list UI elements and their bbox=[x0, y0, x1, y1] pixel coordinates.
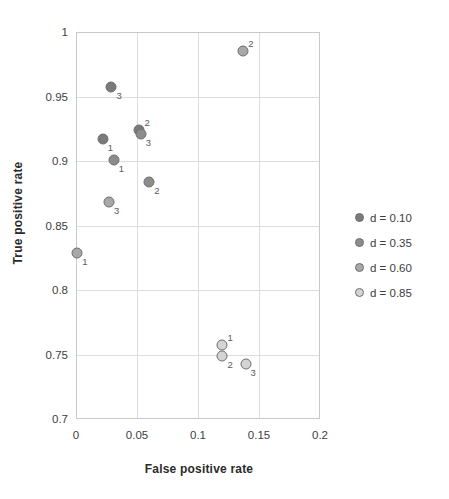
legend-item-label: d = 0.85 bbox=[370, 287, 412, 299]
gridline-horizontal bbox=[77, 97, 319, 98]
legend-marker-icon bbox=[355, 213, 364, 222]
data-point-label: 2 bbox=[248, 38, 253, 49]
data-point bbox=[106, 82, 117, 93]
y-axis-tick-label: 0.7 bbox=[24, 413, 68, 425]
legend-item-label: d = 0.60 bbox=[370, 262, 412, 274]
data-point bbox=[72, 247, 83, 258]
legend-marker-icon bbox=[355, 263, 364, 272]
legend-marker-icon bbox=[355, 288, 364, 297]
data-point bbox=[108, 154, 119, 165]
data-point bbox=[217, 350, 228, 361]
data-point-label: 3 bbox=[251, 367, 256, 378]
data-point bbox=[238, 46, 249, 57]
y-axis-tick-label: 0.75 bbox=[24, 349, 68, 361]
data-point-label: 3 bbox=[114, 205, 119, 216]
data-point-label: 1 bbox=[227, 332, 232, 343]
data-point bbox=[103, 197, 114, 208]
legend-marker-icon bbox=[355, 238, 364, 247]
legend-item-label: d = 0.35 bbox=[370, 237, 412, 249]
chart-figure: 00.050.10.150.20.70.750.80.850.90.951 12… bbox=[0, 0, 449, 499]
y-axis-title: True positive rate bbox=[11, 133, 25, 293]
legend-item: d = 0.10 bbox=[355, 205, 447, 230]
x-axis-tick-label: 0.05 bbox=[126, 429, 148, 441]
data-point bbox=[144, 176, 155, 187]
legend-item: d = 0.35 bbox=[355, 230, 447, 255]
data-point bbox=[240, 358, 251, 369]
x-axis-title: False positive rate bbox=[0, 462, 398, 476]
x-axis-tick-label: 0.1 bbox=[190, 429, 206, 441]
gridline-horizontal bbox=[77, 290, 319, 291]
legend-item-label: d = 0.10 bbox=[370, 212, 412, 224]
chart-legend: d = 0.10d = 0.35d = 0.60d = 0.85 bbox=[355, 205, 447, 305]
legend-item: d = 0.60 bbox=[355, 255, 447, 280]
x-axis-tick-label: 0.15 bbox=[248, 429, 270, 441]
data-point-label: 1 bbox=[82, 256, 87, 267]
x-axis-tick-label: 0.2 bbox=[312, 429, 328, 441]
data-point-label: 3 bbox=[116, 90, 121, 101]
data-point-label: 3 bbox=[146, 137, 151, 148]
y-axis-tick-label: 0.95 bbox=[24, 91, 68, 103]
data-point-label: 2 bbox=[144, 117, 149, 128]
y-axis-tick-label: 0.85 bbox=[24, 220, 68, 232]
gridline-horizontal bbox=[77, 226, 319, 227]
y-axis-tick-label: 0.9 bbox=[24, 155, 68, 167]
y-axis-tick-label: 1 bbox=[24, 26, 68, 38]
legend-item: d = 0.85 bbox=[355, 280, 447, 305]
gridline-horizontal bbox=[77, 355, 319, 356]
x-axis-tick-label: 0 bbox=[73, 429, 79, 441]
data-point-label: 2 bbox=[227, 359, 232, 370]
data-point-label: 1 bbox=[119, 163, 124, 174]
data-point-label: 1 bbox=[108, 142, 113, 153]
data-point-label: 2 bbox=[154, 185, 159, 196]
data-point bbox=[135, 128, 146, 139]
data-point bbox=[97, 134, 108, 145]
y-axis-tick-label: 0.8 bbox=[24, 284, 68, 296]
